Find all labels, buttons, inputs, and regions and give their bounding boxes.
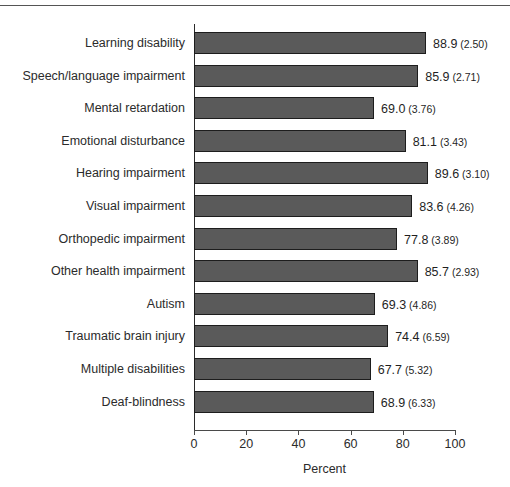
x-axis-tick xyxy=(298,430,299,435)
bar xyxy=(194,130,406,152)
bar-standard-error: (6.33) xyxy=(405,397,435,409)
bar-standard-error: (4.26) xyxy=(444,201,474,213)
bar-standard-error: (2.93) xyxy=(449,266,479,278)
bar xyxy=(194,195,412,217)
bar-value-number: 77.8 xyxy=(404,233,428,247)
bar-standard-error: (3.89) xyxy=(428,234,458,246)
bar-value-label: 88.9 (2.50) xyxy=(433,32,488,55)
x-axis-tick-label: 80 xyxy=(383,437,423,451)
bar-standard-error: (6.59) xyxy=(420,331,450,343)
bar-value-number: 85.7 xyxy=(425,265,449,279)
bar-value-number: 74.4 xyxy=(395,330,419,344)
category-label: Multiple disabilities xyxy=(0,358,185,380)
x-axis-tick xyxy=(403,430,404,435)
category-label: Deaf-blindness xyxy=(0,391,185,413)
category-label: Traumatic brain injury xyxy=(0,325,185,347)
bar-standard-error: (2.50) xyxy=(457,38,487,50)
x-axis-tick-label: 60 xyxy=(331,437,371,451)
category-label: Hearing impairment xyxy=(0,162,185,184)
bar-value-number: 69.3 xyxy=(382,298,406,312)
bar xyxy=(194,391,374,413)
bar-value-number: 85.9 xyxy=(425,70,449,84)
bar-value-number: 89.6 xyxy=(435,167,459,181)
bar-standard-error: (4.86) xyxy=(406,299,436,311)
bar-value-number: 69.0 xyxy=(381,102,405,116)
bar-value-number: 88.9 xyxy=(433,37,457,51)
bar-value-label: 69.0 (3.76) xyxy=(381,97,436,120)
bar-value-number: 68.9 xyxy=(381,396,405,410)
bar-chart-plot-area: Learning disability88.9 (2.50)Speech/lan… xyxy=(0,0,510,487)
bar-standard-error: (3.43) xyxy=(437,136,467,148)
x-axis-tick xyxy=(194,430,195,435)
bar xyxy=(194,260,418,282)
bar xyxy=(194,162,428,184)
bar-standard-error: (5.32) xyxy=(402,364,432,376)
figure: Learning disability88.9 (2.50)Speech/lan… xyxy=(0,0,510,487)
bar-value-label: 68.9 (6.33) xyxy=(381,391,436,414)
category-label: Mental retardation xyxy=(0,97,185,119)
x-axis-line xyxy=(194,430,455,431)
category-label: Autism xyxy=(0,293,185,315)
bar-standard-error: (3.76) xyxy=(405,103,435,115)
bar-value-label: 85.7 (2.93) xyxy=(425,260,480,283)
bar-standard-error: (2.71) xyxy=(450,71,480,83)
bar-value-label: 89.6 (3.10) xyxy=(435,162,490,185)
bar-value-label: 77.8 (3.89) xyxy=(404,228,459,251)
x-axis-tick-label: 100 xyxy=(435,437,475,451)
x-axis-tick-label: 40 xyxy=(278,437,318,451)
category-label: Learning disability xyxy=(0,32,185,54)
bar-value-label: 81.1 (3.43) xyxy=(413,130,468,153)
bar xyxy=(194,228,397,250)
category-label: Orthopedic impairment xyxy=(0,228,185,250)
bar-value-label: 83.6 (4.26) xyxy=(419,195,474,218)
x-axis-title: Percent xyxy=(194,462,455,476)
bar-standard-error: (3.10) xyxy=(459,168,489,180)
category-label: Speech/language impairment xyxy=(0,65,185,87)
bar xyxy=(194,32,426,54)
x-axis-tick-label: 0 xyxy=(174,437,214,451)
bar xyxy=(194,97,374,119)
category-label: Other health impairment xyxy=(0,260,185,282)
bar-value-number: 67.7 xyxy=(378,363,402,377)
category-label: Emotional disturbance xyxy=(0,130,185,152)
bar xyxy=(194,358,371,380)
x-axis-tick xyxy=(455,430,456,435)
x-axis-tick xyxy=(246,430,247,435)
bar xyxy=(194,293,375,315)
bar-value-label: 85.9 (2.71) xyxy=(425,65,480,88)
bar-value-number: 83.6 xyxy=(419,200,443,214)
category-label: Visual impairment xyxy=(0,195,185,217)
bar xyxy=(194,325,388,347)
bar-value-label: 74.4 (6.59) xyxy=(395,325,450,348)
x-axis-tick-label: 20 xyxy=(226,437,266,451)
bar xyxy=(194,65,418,87)
bar-value-label: 67.7 (5.32) xyxy=(378,358,433,381)
bar-value-number: 81.1 xyxy=(413,135,437,149)
bar-value-label: 69.3 (4.86) xyxy=(382,293,437,316)
x-axis-tick xyxy=(351,430,352,435)
